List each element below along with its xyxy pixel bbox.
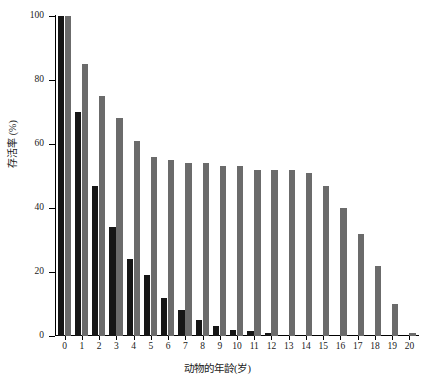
x-tick-mark — [185, 336, 186, 340]
bar-gray-series-age-0 — [65, 16, 71, 336]
y-tick-label: 0 — [0, 331, 44, 341]
x-tick-mark — [323, 336, 324, 340]
y-tick-mark — [49, 16, 55, 17]
y-tick-mark — [49, 208, 55, 209]
bar-dark-series-age-5 — [144, 275, 150, 336]
y-tick-mark — [49, 144, 55, 145]
bar-dark-series-age-1 — [75, 112, 81, 336]
bar-gray-series-age-11 — [254, 170, 260, 336]
bar-gray-series-age-20 — [409, 333, 415, 336]
y-tick-mark — [49, 80, 55, 81]
bar-dark-series-age-7 — [178, 310, 184, 336]
bar-gray-series-age-1 — [82, 64, 88, 336]
bar-gray-series-age-18 — [375, 266, 381, 336]
bar-dark-series-age-4 — [127, 259, 133, 336]
bar-dark-series-age-2 — [92, 186, 98, 336]
y-tick-mark — [49, 336, 55, 337]
bar-dark-series-age-3 — [109, 227, 115, 336]
bar-dark-series-age-12 — [265, 333, 271, 336]
bar-dark-series-age-9 — [213, 326, 219, 336]
x-tick-mark — [134, 336, 135, 340]
plot-area — [56, 16, 418, 336]
x-tick-mark — [151, 336, 152, 340]
bar-dark-series-age-11 — [247, 331, 253, 336]
x-tick-mark — [82, 336, 83, 340]
x-tick-mark — [289, 336, 290, 340]
x-tick-mark — [220, 336, 221, 340]
x-tick-mark — [65, 336, 66, 340]
x-tick-mark — [254, 336, 255, 340]
y-tick-mark — [49, 272, 55, 273]
x-tick-mark — [306, 336, 307, 340]
x-tick-mark — [237, 336, 238, 340]
bar-dark-series-age-0 — [58, 16, 64, 336]
bar-dark-series-age-10 — [230, 330, 236, 336]
x-tick-mark — [99, 336, 100, 340]
bar-dark-series-age-6 — [161, 298, 167, 336]
x-tick-mark — [168, 336, 169, 340]
y-tick-label: 100 — [0, 11, 44, 21]
bar-gray-series-age-12 — [271, 170, 277, 336]
y-tick-label: 20 — [0, 267, 44, 277]
bar-gray-series-age-17 — [358, 234, 364, 336]
bar-dark-series-age-8 — [196, 320, 202, 336]
bar-gray-series-age-5 — [151, 157, 157, 336]
bar-gray-series-age-7 — [185, 163, 191, 336]
bar-gray-series-age-6 — [168, 160, 174, 336]
x-tick-mark — [203, 336, 204, 340]
bar-gray-series-age-2 — [99, 96, 105, 336]
bar-gray-series-age-3 — [116, 118, 122, 336]
bar-gray-series-age-14 — [306, 173, 312, 336]
bar-gray-series-age-15 — [323, 186, 329, 336]
x-axis-title: 动物的年龄(岁) — [0, 362, 435, 375]
bar-gray-series-age-9 — [220, 166, 226, 336]
y-axis-title: 存活率 (%) — [7, 79, 19, 209]
bar-gray-series-age-13 — [289, 170, 295, 336]
bar-gray-series-age-10 — [237, 166, 243, 336]
x-tick-mark — [409, 336, 410, 340]
survival-rate-bar-chart: 020406080100 012345678910111213141516171… — [0, 0, 435, 386]
x-tick-mark — [375, 336, 376, 340]
x-tick-mark — [271, 336, 272, 340]
x-tick-label: 20 — [399, 341, 419, 352]
bar-gray-series-age-4 — [134, 141, 140, 336]
bar-gray-series-age-16 — [340, 208, 346, 336]
x-tick-mark — [340, 336, 341, 340]
x-tick-mark — [116, 336, 117, 340]
bar-gray-series-age-19 — [392, 304, 398, 336]
x-tick-mark — [392, 336, 393, 340]
bar-gray-series-age-8 — [203, 163, 209, 336]
x-tick-mark — [358, 336, 359, 340]
